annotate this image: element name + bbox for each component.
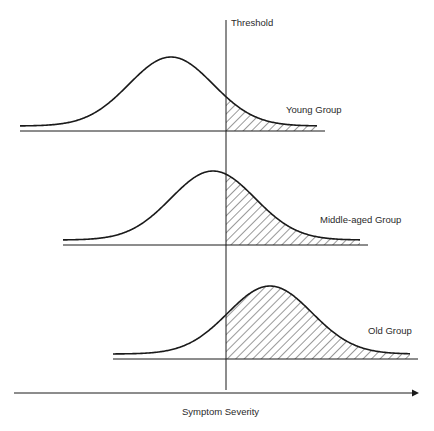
distribution-curve-0 xyxy=(20,57,317,126)
old-group-label: Old Group xyxy=(368,325,412,336)
x-axis-label: Symptom Severity xyxy=(182,406,259,417)
middle-aged-group-label: Middle-aged Group xyxy=(320,214,401,225)
hatched-region-1 xyxy=(226,174,360,245)
x-axis-arrow-icon xyxy=(412,390,419,397)
distribution-curve-1 xyxy=(63,171,360,240)
threshold-label: Threshold xyxy=(231,17,273,28)
young-group-label: Young Group xyxy=(286,104,342,115)
hatched-region-2 xyxy=(226,286,410,359)
threshold-diagram: Threshold Young Group Middle-aged Group … xyxy=(0,0,434,431)
